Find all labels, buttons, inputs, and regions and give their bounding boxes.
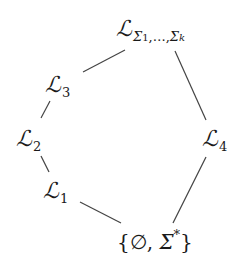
edge-top-L3 — [83, 50, 125, 72]
kleene-star: * — [174, 227, 181, 242]
sigma: Σ — [159, 230, 173, 254]
subscript: 1 — [60, 191, 68, 206]
script-L: ℒ — [116, 16, 132, 41]
node-top: ℒΣ1,…,Σk — [116, 18, 185, 40]
edge-L2-L1 — [41, 156, 49, 172]
edge-L4-bottom — [173, 157, 206, 223]
script-L: ℒ — [45, 72, 61, 97]
separator: ,…, — [149, 29, 170, 44]
sigma-1: Σ — [133, 29, 142, 44]
lattice-diagram: ℒΣ1,…,Σk ℒ3 ℒ2 ℒ1 ℒ4 {∅, Σ*} — [0, 0, 233, 273]
subscript: 2 — [33, 139, 41, 154]
node-L3: ℒ3 — [45, 74, 70, 96]
index-k: k — [179, 32, 185, 43]
node-L1: ℒ1 — [43, 180, 68, 202]
brace-open: { — [117, 230, 130, 254]
edge-L1-bottom — [80, 202, 121, 223]
node-L2: ℒ2 — [16, 128, 41, 150]
edge-top-L4 — [175, 51, 206, 120]
sigma-k: Σ — [170, 29, 179, 44]
edge-L3-L2 — [41, 101, 50, 118]
subscript: 4 — [219, 139, 227, 154]
script-L: ℒ — [202, 126, 218, 151]
comma: , — [147, 230, 160, 254]
subscript: 3 — [62, 85, 70, 100]
script-L: ℒ — [16, 126, 32, 151]
brace-close: } — [180, 230, 193, 254]
node-bottom: {∅, Σ*} — [117, 230, 193, 252]
node-L4: ℒ4 — [202, 128, 227, 150]
empty-set: ∅ — [130, 230, 147, 254]
script-L: ℒ — [43, 178, 59, 203]
